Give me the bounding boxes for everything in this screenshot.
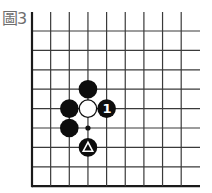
white-stone [79, 100, 96, 117]
go-board-diagram: 1 [0, 0, 212, 193]
move-number-label: 1 [102, 101, 111, 116]
black-stone [79, 80, 98, 99]
black-stone [60, 119, 79, 138]
black-stone [60, 99, 79, 118]
point-marker-dot [85, 125, 90, 130]
